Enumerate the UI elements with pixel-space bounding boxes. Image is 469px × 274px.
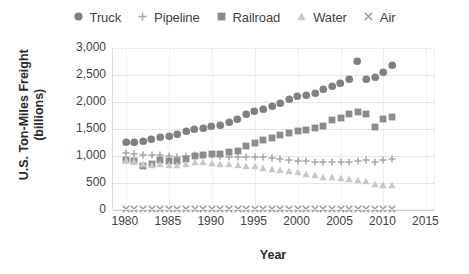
data-point — [354, 205, 362, 213]
legend-marker-plus-icon — [138, 12, 149, 23]
legend-item-railroad[interactable]: Railroad — [217, 10, 281, 25]
y-tick-label: 1,000 — [46, 148, 106, 162]
legend-marker-circle-icon — [74, 12, 85, 23]
data-point — [302, 205, 310, 213]
data-point — [199, 205, 207, 213]
y-axis-title-line2: (billions) — [32, 89, 46, 141]
y-tick-label: 500 — [46, 175, 106, 189]
legend-label: Air — [380, 10, 396, 25]
data-point — [191, 205, 199, 213]
data-point — [337, 205, 345, 213]
data-point — [251, 205, 259, 213]
data-point — [294, 205, 302, 213]
data-point — [388, 205, 396, 213]
data-point — [328, 205, 336, 213]
data-point — [165, 205, 173, 213]
data-point — [371, 205, 379, 213]
y-tick-label: 3,000 — [46, 40, 106, 54]
data-point — [130, 205, 138, 213]
data-point — [276, 205, 284, 213]
legend-label: Water — [313, 10, 347, 25]
legend-item-air[interactable]: Air — [364, 10, 396, 25]
x-axis-title: Year — [112, 248, 434, 262]
legend-item-pipeline[interactable]: Pipeline — [138, 10, 199, 25]
legend-marker-triangle-icon — [297, 12, 308, 23]
series-air — [113, 48, 435, 210]
x-tick-label: 2005 — [318, 214, 362, 228]
x-tick-label: 2000 — [275, 214, 319, 228]
x-tick-label: 1990 — [189, 214, 233, 228]
data-point — [285, 205, 293, 213]
data-point — [268, 205, 276, 213]
x-tick-label: 1980 — [103, 214, 147, 228]
x-tick-label: 1985 — [146, 214, 190, 228]
legend-item-truck[interactable]: Truck — [74, 10, 122, 25]
data-point — [311, 205, 319, 213]
legend-label: Pipeline — [154, 10, 199, 25]
legend-label: Truck — [90, 10, 122, 25]
legend-marker-cross-icon — [364, 12, 375, 23]
freight-chart-figure: TruckPipelineRailroadWaterAir U.S. Ton-M… — [0, 0, 469, 274]
legend-item-water[interactable]: Water — [297, 10, 347, 25]
y-tick-label: 0 — [46, 202, 106, 216]
data-point — [259, 205, 267, 213]
data-point — [208, 205, 216, 213]
x-tick-label: 1995 — [232, 214, 276, 228]
y-tick-label: 2,000 — [46, 94, 106, 108]
data-point — [362, 205, 370, 213]
data-point — [139, 205, 147, 213]
data-point — [156, 205, 164, 213]
plot-area — [112, 48, 434, 210]
x-tick-label: 2015 — [403, 214, 447, 228]
data-point — [225, 205, 233, 213]
y-axis-title: U.S. Ton-Miles Freight (billions) — [17, 20, 47, 210]
data-point — [182, 205, 190, 213]
data-point — [242, 205, 250, 213]
y-axis-title-line1: U.S. Ton-Miles Freight — [17, 49, 31, 180]
y-tick-label: 2,500 — [46, 67, 106, 81]
legend-label: Railroad — [233, 10, 281, 25]
data-point — [345, 205, 353, 213]
x-tick-label: 2010 — [360, 214, 404, 228]
data-point — [379, 205, 387, 213]
data-point — [216, 205, 224, 213]
data-point — [122, 205, 130, 213]
data-point — [148, 205, 156, 213]
legend-marker-square-icon — [217, 12, 228, 23]
data-point — [173, 205, 181, 213]
y-tick-label: 1,500 — [46, 121, 106, 135]
data-point — [234, 205, 242, 213]
chart-legend: TruckPipelineRailroadWaterAir — [0, 6, 469, 28]
data-point — [319, 205, 327, 213]
